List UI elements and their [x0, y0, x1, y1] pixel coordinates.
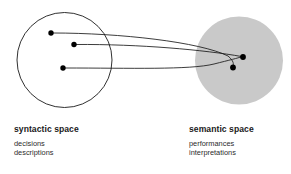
diagram-figure: syntactic space decisions descriptions s… — [0, 0, 291, 174]
syntactic-point-1 — [48, 30, 53, 35]
syntactic-space-circle — [17, 13, 112, 108]
syntactic-space-heading: syntactic space — [14, 124, 79, 134]
syntactic-point-2 — [71, 42, 76, 47]
semantic-space-heading: semantic space — [189, 124, 254, 134]
semantic-point-2 — [230, 65, 236, 71]
semantic-space-item-list: performances interpretations — [189, 139, 254, 157]
semantic-space-item: performances — [189, 139, 254, 148]
syntactic-space-item: descriptions — [14, 148, 79, 157]
syntactic-space-item-list: decisions descriptions — [14, 139, 79, 157]
semantic-space-label-block: semantic space performances interpretati… — [189, 124, 254, 157]
syntactic-space-item: decisions — [14, 139, 79, 148]
semantic-space-item: interpretations — [189, 148, 254, 157]
syntactic-space-label-block: syntactic space decisions descriptions — [14, 124, 79, 157]
syntactic-point-3 — [60, 65, 65, 70]
semantic-space-circle — [195, 17, 283, 105]
semantic-point-1 — [240, 54, 246, 60]
